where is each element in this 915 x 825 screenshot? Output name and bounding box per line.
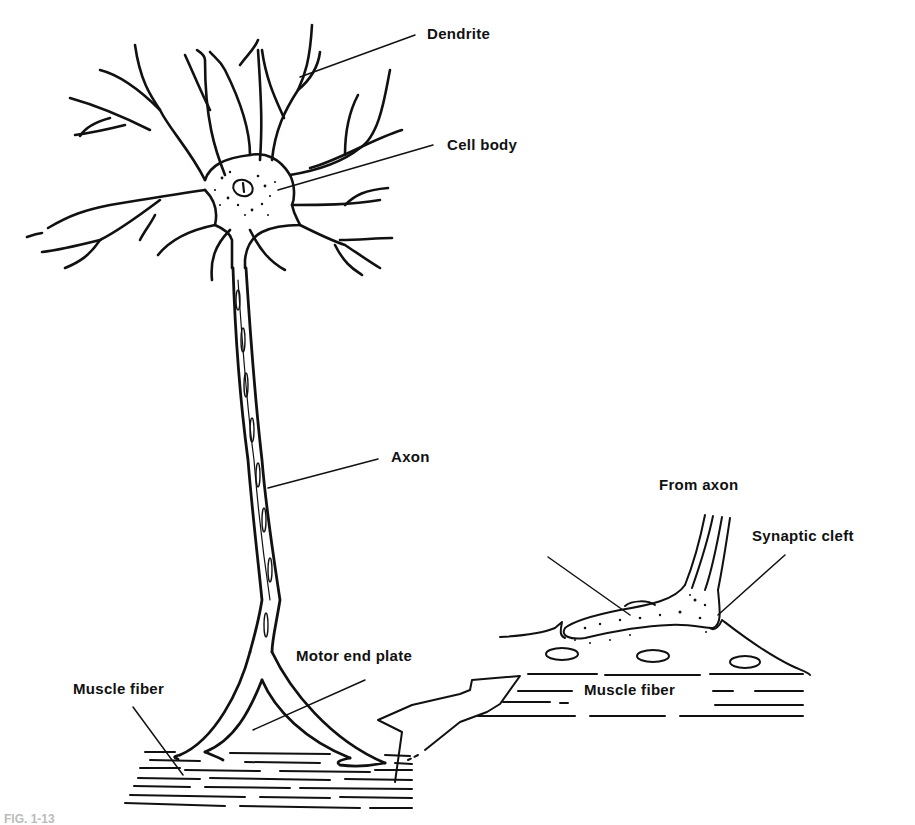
enlargement-arrow [378,676,520,782]
neuron-diagram: Dendrite Cell body Axon Motor end plate … [0,0,915,825]
figure-caption-partial: FIG. 1-13 [4,812,55,825]
cytoplasm-granules [214,171,276,216]
axon [233,268,280,652]
label-synaptic-cleft: Synaptic cleft [752,527,854,544]
dendrite-tree [27,25,402,280]
motor-end-plate-leader [253,680,365,730]
label-cell-body: Cell body [447,136,517,153]
label-muscle-fiber-right: Muscle fiber [584,681,675,698]
vesicle-leader [548,557,630,615]
dendrite-leader [300,35,415,77]
muscle-fiber-left [125,752,412,808]
label-motor-end-plate: Motor end plate [296,647,412,664]
muscle-fiber-left-leader [133,707,183,775]
label-dendrite: Dendrite [427,25,490,42]
axon-terminals [175,652,385,766]
label-muscle-fiber-left: Muscle fiber [73,680,164,697]
synaptic-cleft-leader [718,555,785,615]
label-from-axon: From axon [659,476,738,493]
neuron-illustration [0,0,915,825]
axon-leader [268,459,378,488]
label-axon: Axon [391,448,430,465]
